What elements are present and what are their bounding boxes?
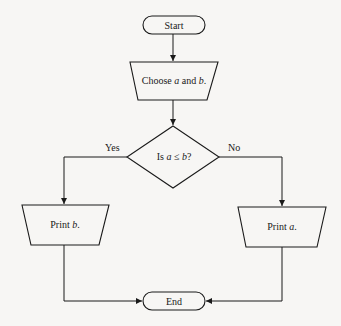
decision-node: Is a ≤ b? bbox=[127, 126, 219, 188]
end-label: End bbox=[166, 296, 182, 307]
yes-label: Yes bbox=[105, 142, 120, 153]
choose-label: Choose a and b. bbox=[142, 75, 206, 86]
no-label: No bbox=[228, 142, 240, 153]
print-a-node: Print a. bbox=[238, 207, 326, 247]
flowchart: Start Choose a and b. Is a ≤ b? Yes No P… bbox=[0, 0, 341, 326]
print-a-label: Print a. bbox=[267, 221, 296, 232]
choose-node: Choose a and b. bbox=[130, 62, 218, 100]
print-b-label: Print b. bbox=[50, 219, 79, 230]
print-b-node: Print b. bbox=[22, 205, 109, 245]
edge-print-a-to-end bbox=[206, 247, 282, 301]
start-label: Start bbox=[165, 20, 184, 31]
edge-yes-to-print-b bbox=[64, 157, 127, 204]
decision-label: Is a ≤ b? bbox=[157, 151, 192, 162]
edge-no-to-print-a bbox=[219, 157, 282, 206]
start-node: Start bbox=[143, 16, 205, 34]
end-node: End bbox=[143, 292, 205, 310]
edge-print-b-to-end bbox=[64, 245, 142, 301]
